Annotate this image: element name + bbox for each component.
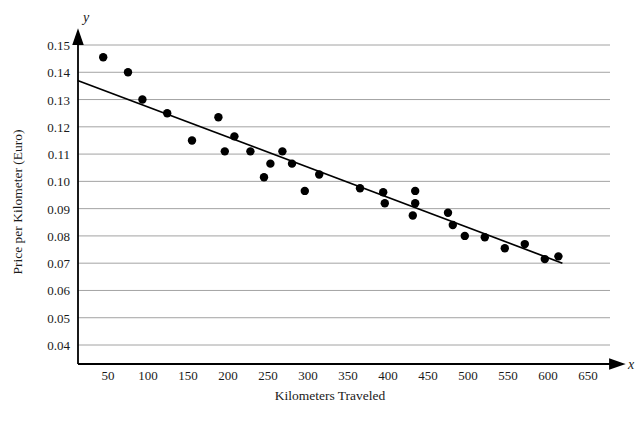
data-point (315, 170, 323, 178)
x-tick-label: 350 (338, 368, 358, 383)
data-points (99, 53, 563, 263)
data-point (214, 113, 222, 121)
data-point (444, 209, 452, 217)
x-tick-label: 150 (178, 368, 198, 383)
data-point (411, 187, 419, 195)
data-point (356, 184, 364, 192)
y-tick-label: 0.08 (47, 229, 70, 244)
y-tick-label: 0.15 (47, 38, 70, 53)
y-axis-arrowhead (74, 31, 83, 44)
data-point (138, 95, 146, 103)
data-point (379, 188, 387, 196)
x-tick-label: 300 (298, 368, 318, 383)
data-point (461, 232, 469, 240)
data-point (188, 136, 196, 144)
data-point (221, 147, 229, 155)
data-point (449, 221, 457, 229)
y-axis-tick-labels: 0.040.050.060.070.080.090.100.110.120.13… (47, 38, 70, 353)
y-tick-label: 0.04 (47, 338, 70, 353)
data-point (501, 244, 509, 252)
data-point (381, 199, 389, 207)
data-point (163, 109, 171, 117)
y-axis-title: Price per Kilometer (Euro) (10, 129, 25, 274)
data-point (521, 240, 529, 248)
y-tick-label: 0.12 (47, 120, 70, 135)
x-tick-label: 100 (138, 368, 158, 383)
x-tick-label: 650 (578, 368, 598, 383)
y-tick-label: 0.06 (47, 283, 70, 298)
data-point (481, 233, 489, 241)
data-point (301, 187, 309, 195)
x-tick-label: 250 (258, 368, 278, 383)
x-axis-tick-labels: 50100150200250300350400450500550600650 (102, 368, 598, 383)
data-point (266, 159, 274, 167)
data-point (288, 159, 296, 167)
x-tick-label: 50 (102, 368, 115, 383)
x-axis-title: Kilometers Traveled (275, 388, 386, 403)
x-tick-label: 450 (418, 368, 438, 383)
y-tick-label: 0.11 (48, 147, 70, 162)
y-tick-label: 0.14 (47, 65, 70, 80)
y-tick-label: 0.10 (47, 174, 70, 189)
data-point (409, 211, 417, 219)
y-tick-label: 0.05 (47, 311, 70, 326)
x-axis-arrowhead (610, 360, 623, 369)
y-axis-variable-label: y (81, 10, 90, 25)
data-point (278, 147, 286, 155)
data-point (230, 132, 238, 140)
x-tick-label: 400 (378, 368, 398, 383)
chart-canvas: 0.040.050.060.070.080.090.100.110.120.13… (0, 0, 641, 422)
scatter-plot-figure: 0.040.050.060.070.080.090.100.110.120.13… (0, 0, 641, 422)
data-point (246, 147, 254, 155)
x-tick-label: 200 (218, 368, 238, 383)
y-tick-label: 0.07 (47, 256, 70, 271)
data-point (99, 53, 107, 61)
data-point (541, 255, 549, 263)
data-point (554, 252, 562, 260)
data-point (124, 68, 132, 76)
data-point (260, 173, 268, 181)
gridlines (78, 45, 610, 345)
y-tick-label: 0.13 (47, 93, 70, 108)
data-point (411, 199, 419, 207)
x-tick-label: 550 (498, 368, 518, 383)
y-tick-label: 0.09 (47, 202, 70, 217)
x-tick-label: 600 (538, 368, 558, 383)
x-axis-variable-label: x (627, 357, 635, 372)
x-tick-label: 500 (458, 368, 478, 383)
